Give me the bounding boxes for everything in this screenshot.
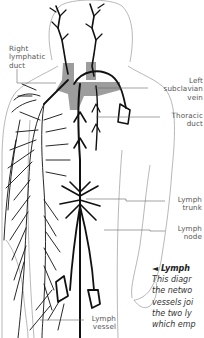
lymphatic-diagram: Right lymphatic duct Left subclavian vei… <box>0 0 204 338</box>
caption-line: which emp <box>152 319 204 330</box>
label-line: vessel <box>86 323 116 331</box>
label-line: node <box>168 233 202 241</box>
label-line: duct <box>172 120 203 128</box>
subclavian-vein-shading <box>56 62 120 110</box>
caption-line: the two ly <box>152 308 204 319</box>
diagram-caption: ◄ Lymph This diagr the netwo vessels joi… <box>152 263 204 330</box>
label-left-subclavian-vein: Left subclavian vein <box>164 77 203 102</box>
label-line: duct <box>9 62 45 70</box>
label-lymph-node: Lymph node <box>168 225 202 242</box>
label-lymph-trunk: Lymph trunk <box>168 196 202 213</box>
caption-line: This diagr <box>152 274 204 285</box>
arm-lymph-network <box>4 84 70 338</box>
label-line: vein <box>164 94 203 102</box>
caption-line: the netwo <box>152 285 204 296</box>
leader-lines <box>17 69 165 320</box>
label-lymph-vessel: Lymph vessel <box>86 315 116 332</box>
caption-line: vessels joi <box>152 297 204 308</box>
label-line: trunk <box>168 204 202 212</box>
label-right-lymphatic-duct: Right lymphatic duct <box>9 45 45 70</box>
caption-title: ◄ Lymph <box>152 263 204 274</box>
label-thoracic-duct: Thoracic duct <box>172 112 203 129</box>
